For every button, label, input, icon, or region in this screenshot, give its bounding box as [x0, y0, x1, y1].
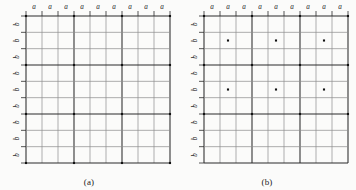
- top-axis-label-a: a: [160, 3, 164, 11]
- left-axis-label-b: b: [191, 55, 199, 59]
- lattice-point: [323, 39, 325, 41]
- lattice-point: [169, 15, 171, 17]
- lattice-point: [25, 113, 27, 115]
- lattice-point: [169, 113, 171, 115]
- top-axis-label-a: a: [338, 3, 342, 11]
- grid-lines: [26, 16, 170, 163]
- lattice-point: [299, 64, 301, 66]
- lattice-point: [347, 64, 349, 66]
- left-axis-label-b: b: [13, 120, 21, 124]
- top-axis: aaaaaaaaa: [26, 3, 170, 16]
- left-axis-label-b: b: [13, 104, 21, 108]
- lattice-diagram-a: aaaaaaaaabbbbbbbbb: [0, 0, 178, 190]
- panel-a-caption: (a): [0, 177, 178, 187]
- lattice-point: [251, 64, 253, 66]
- lattice-point: [169, 64, 171, 66]
- lattice-point: [203, 15, 205, 17]
- lattice-point: [121, 15, 123, 17]
- lattice-point: [121, 162, 123, 164]
- left-axis-label-b: b: [191, 153, 199, 157]
- lattice-point: [299, 15, 301, 17]
- top-axis-label-a: a: [306, 3, 310, 11]
- lattice-diagram-b: aaaaaaaaabbbbbbbbb: [178, 0, 356, 190]
- top-axis-label-a: a: [64, 3, 68, 11]
- top-axis-label-a: a: [144, 3, 148, 11]
- left-axis-label-b: b: [13, 153, 21, 157]
- left-axis-label-b: b: [191, 120, 199, 124]
- top-axis-label-a: a: [112, 3, 116, 11]
- lattice-point: [347, 113, 349, 115]
- left-axis-label-b: b: [13, 71, 21, 75]
- lattice-point: [121, 113, 123, 115]
- lattice-figure: aaaaaaaaabbbbbbbbb (a) aaaaaaaaabbbbbbbb…: [0, 0, 356, 190]
- top-axis-label-a: a: [32, 3, 36, 11]
- left-axis-label-b: b: [13, 38, 21, 42]
- lattice-point: [251, 113, 253, 115]
- left-axis-label-b: b: [191, 136, 199, 140]
- lattice-point: [121, 64, 123, 66]
- lattice-point: [275, 88, 277, 90]
- top-axis-label-a: a: [128, 3, 132, 11]
- panel-b-caption: (b): [178, 177, 356, 187]
- lattice-point: [169, 162, 171, 164]
- lattice-point: [73, 162, 75, 164]
- top-axis: aaaaaaaaa: [204, 3, 348, 16]
- left-axis-label-b: b: [191, 22, 199, 26]
- top-axis-label-a: a: [80, 3, 84, 11]
- lattice-point: [73, 64, 75, 66]
- lattice-panel-a: aaaaaaaaabbbbbbbbb (a): [0, 0, 178, 190]
- top-axis-label-a: a: [242, 3, 246, 11]
- lattice-points: [25, 15, 171, 164]
- lattice-point: [203, 64, 205, 66]
- top-axis-label-a: a: [226, 3, 230, 11]
- lattice-point: [73, 113, 75, 115]
- left-axis-label-b: b: [191, 71, 199, 75]
- left-axis: bbbbbbbbb: [13, 16, 26, 163]
- lattice-point: [73, 15, 75, 17]
- lattice-point: [299, 113, 301, 115]
- top-axis-label-a: a: [274, 3, 278, 11]
- lattice-point: [275, 39, 277, 41]
- left-axis-label-b: b: [13, 87, 21, 91]
- left-axis-label-b: b: [191, 104, 199, 108]
- lattice-point: [227, 39, 229, 41]
- lattice-point: [25, 64, 27, 66]
- top-axis-label-a: a: [322, 3, 326, 11]
- lattice-point: [323, 88, 325, 90]
- lattice-point: [251, 15, 253, 17]
- left-axis-label-b: b: [13, 55, 21, 59]
- lattice-point: [203, 113, 205, 115]
- lattice-point: [347, 15, 349, 17]
- left-axis-label-b: b: [191, 38, 199, 42]
- left-axis-label-b: b: [13, 22, 21, 26]
- lattice-point: [227, 88, 229, 90]
- lattice-panel-b: aaaaaaaaabbbbbbbbb (b): [178, 0, 356, 190]
- left-axis-label-b: b: [13, 136, 21, 140]
- top-axis-label-a: a: [210, 3, 214, 11]
- lattice-point: [25, 162, 27, 164]
- top-axis-label-a: a: [96, 3, 100, 11]
- top-axis-label-a: a: [290, 3, 294, 11]
- top-axis-label-a: a: [48, 3, 52, 11]
- top-axis-label-a: a: [258, 3, 262, 11]
- left-axis-label-b: b: [191, 87, 199, 91]
- lattice-point: [25, 15, 27, 17]
- left-axis: bbbbbbbbb: [191, 16, 204, 163]
